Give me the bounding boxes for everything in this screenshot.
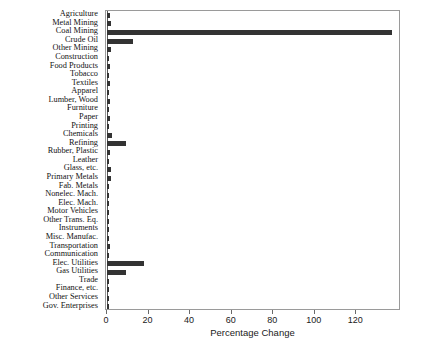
bar [107,193,109,198]
bar [107,150,110,155]
bar [107,39,133,44]
bar [107,141,126,146]
bar [107,116,110,121]
bar [107,133,112,138]
x-tick-mark [314,310,315,314]
bar [107,13,110,18]
x-tick-mark [355,310,356,314]
bar [107,244,110,249]
x-tick-label: 100 [294,315,334,325]
bar [107,227,109,232]
bar [107,210,109,215]
x-tick-label: 80 [252,315,292,325]
bar [107,287,109,292]
plot-area [106,11,399,309]
bar [107,99,110,104]
bar [107,279,109,284]
x-tick-label: 120 [335,315,375,325]
bar [107,81,110,86]
bar [107,56,109,61]
bar [107,64,110,69]
bar [107,73,109,78]
x-tick-mark [231,310,232,314]
bar [107,304,109,309]
percentage-change-bar-chart: AgricultureMetal MiningCoal MiningCrude … [0,0,424,346]
bar [107,253,109,258]
x-tick-label: 60 [211,315,251,325]
x-tick-label: 0 [86,315,126,325]
x-tick-mark [189,310,190,314]
bar [107,90,109,95]
bar [107,236,109,241]
bar [107,159,109,164]
bar [107,30,392,35]
bar [107,167,111,172]
x-tick-mark [106,310,107,314]
x-tick-label: 40 [169,315,209,325]
bar [107,47,111,52]
bar [107,219,109,224]
x-tick-label: 20 [128,315,168,325]
plot-frame [105,10,400,310]
category-label: Gov. Enterprises [0,301,98,310]
x-axis-title: Percentage Change [105,327,400,338]
bar [107,176,111,181]
x-tick-mark [272,310,273,314]
bar [107,21,111,26]
category-axis-labels: AgricultureMetal MiningCoal MiningCrude … [0,10,101,310]
bar [107,184,109,189]
bar [107,124,109,129]
bar [107,296,109,301]
bar [107,270,126,275]
x-tick-mark [148,310,149,314]
bar [107,107,109,112]
bar [107,201,109,206]
bar [107,261,144,266]
